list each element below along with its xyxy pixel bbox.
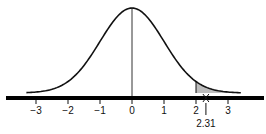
tick-label: −3 [30,105,42,116]
normal-curve [26,8,240,93]
tick-label: 2 [193,105,199,116]
tick-label: −2 [62,105,74,116]
x-axis [6,96,264,100]
tick-label: 0 [129,105,135,116]
tick-label: −1 [94,105,106,116]
normal-curve-chart: −3−2−10123 2.31 [0,0,266,134]
x-ticks: −3−2−10123 [30,100,231,116]
tick-label: 3 [225,105,231,116]
tick-label: 1 [161,105,167,116]
annotation-label: 2.31 [196,118,216,129]
